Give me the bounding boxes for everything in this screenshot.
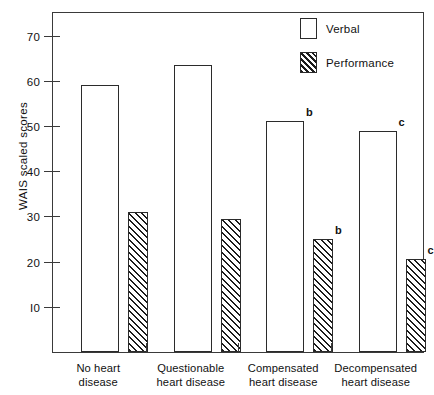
y-axis-tick-inner <box>53 171 60 172</box>
y-axis-tick-inner <box>53 126 60 127</box>
y-axis-tick-inner <box>53 36 60 37</box>
bar-annotation-performance: c <box>428 244 434 256</box>
y-axis-tick: 40 <box>44 171 53 172</box>
hatched-box-swatch <box>300 52 317 73</box>
x-axis-tick <box>331 343 332 352</box>
y-axis-tick: 50 <box>44 126 53 127</box>
y-axis-tick-label: 20 <box>27 257 40 269</box>
y-axis-tick: 60 <box>44 81 53 82</box>
y-axis-tick: 70 <box>44 36 53 37</box>
y-axis-tick: 20 <box>44 262 53 263</box>
chart-legend: Verbal Performance <box>300 18 394 86</box>
y-axis-tick-label: 40 <box>27 166 40 178</box>
x-axis-group-label-line: Decompensated <box>322 361 431 375</box>
bar-annotation-verbal: c <box>399 116 405 128</box>
y-axis-tick-inner <box>53 262 60 263</box>
open-box-swatch <box>300 18 317 39</box>
bar-performance <box>221 219 241 352</box>
bar-annotation-performance: b <box>335 224 342 236</box>
y-axis-tick-label: 30 <box>27 211 40 223</box>
y-axis-tick-label: 70 <box>27 31 40 43</box>
bar-verbal <box>81 85 119 352</box>
y-axis-tick: I0 <box>44 307 53 308</box>
x-axis-tick <box>238 343 239 352</box>
y-axis-tick-label: 60 <box>27 76 40 88</box>
legend-label-performance: Performance <box>326 57 394 69</box>
y-axis-tick: 30 <box>44 216 53 217</box>
x-axis-group-label-line: heart disease <box>322 375 431 389</box>
x-axis-tick <box>146 343 147 352</box>
wais-scores-bar-chart: WAIS scaled scores I0203040506070bbcc No… <box>0 0 434 395</box>
bar-performance <box>128 212 148 352</box>
y-axis-tick-inner <box>53 216 60 217</box>
bar-performance <box>406 259 426 352</box>
bar-verbal <box>359 131 397 352</box>
legend-item-verbal: Verbal <box>300 18 394 39</box>
legend-item-performance: Performance <box>300 52 394 73</box>
bar-performance <box>313 239 333 352</box>
y-axis-tick-inner <box>53 81 60 82</box>
x-axis-group-label: Decompensatedheart disease <box>322 361 431 389</box>
legend-label-verbal: Verbal <box>326 23 360 35</box>
y-axis-tick-inner <box>53 307 60 308</box>
bar-verbal <box>266 121 304 352</box>
bar-verbal <box>174 65 212 352</box>
bar-annotation-verbal: b <box>306 106 313 118</box>
y-axis-tick-label: I0 <box>30 302 40 314</box>
y-axis-tick-label: 50 <box>27 121 40 133</box>
